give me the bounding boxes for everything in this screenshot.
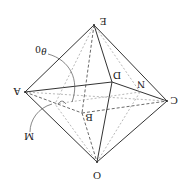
label-N: N [137,79,145,91]
edge-ED [94,25,112,82]
edge-AO [25,92,97,162]
label-theta0: θ 0 [35,44,47,58]
edge-AD [25,82,112,92]
label-A: A [13,86,21,98]
line-MN [55,92,140,104]
label-B: B [85,112,92,124]
edge-CO [97,101,167,162]
vertex-O [96,161,98,163]
label-M: M [24,131,34,143]
label-D: D [113,70,121,82]
edge-DO [97,82,112,162]
edge-EC [94,25,167,101]
diagram-svg: E A C O D B N M θ 0 [0,0,184,194]
octahedron-diagram: E A C O D B N M θ 0 [0,0,184,194]
label-E: E [99,16,106,28]
vertex-A [24,91,26,93]
label-C: C [170,95,177,107]
vertex-E [93,24,95,26]
edge-BC [82,101,167,113]
label-O: O [93,170,101,182]
vertex-C [166,100,168,102]
theta-subscript: 0 [35,44,41,56]
edge-EA [25,25,94,92]
